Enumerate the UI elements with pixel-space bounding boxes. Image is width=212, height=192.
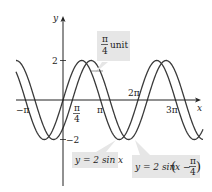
x-tick-label-pi4-den: 4 [74,114,80,124]
callout-sin-x: y = 2 sin x [72,140,123,168]
callout-shift-inner: x − [175,162,190,172]
y-tick-label-neg2: −2 [66,135,79,145]
y-tick-label-2: 2 [52,56,58,66]
callout-unit-num: π [102,34,108,44]
callout-unit-word: unit [110,40,128,50]
callout-shift-prefix: y = 2 sin [134,162,175,172]
sine-phase-shift-chart: x y 2 −2 −π π 2π 3π π 4 π 4 unit y = 2 s… [0,0,212,192]
callout-sin-shift: y = 2 sin ( x − π 4 ) [132,140,201,178]
x-axis-label: x [197,103,202,113]
callout-sin-label: y = 2 sin x [74,155,123,165]
y-axis-label: y [52,13,59,23]
x-tick-label-pi4-num: π [74,103,80,113]
callout-shift-rparen: ) [196,159,201,174]
x-tick-label-2pi: 2π [128,88,140,98]
x-tick-label-pi: π [97,105,103,115]
x-tick-label-3pi: 3π [166,105,178,115]
x-tick-label-neg-pi: −π [16,105,30,115]
callout-unit-den: 4 [102,46,108,56]
callout-pi4-unit: π 4 unit [90,31,130,73]
